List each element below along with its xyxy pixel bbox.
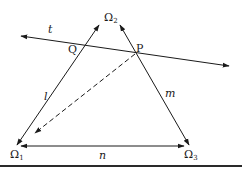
line-t-label: t [48,23,53,36]
point-p-label: P [136,42,144,55]
dashed-line-from-p [35,54,135,133]
point-q-label: Q [68,43,77,56]
bottom-rule [0,165,242,167]
line-l [17,25,99,145]
vertex-omega1-label: Ω1 [10,148,24,162]
vertex-omega3-label: Ω3 [184,148,198,162]
line-l-label: l [44,90,48,103]
triangle-diagram: Ω2 Ω1 Ω3 t l m n Q P [0,0,242,169]
line-n-label: n [99,149,106,162]
line-m-label: m [165,87,175,100]
line-m [120,25,189,145]
vertex-omega2-label: Ω2 [104,11,118,25]
